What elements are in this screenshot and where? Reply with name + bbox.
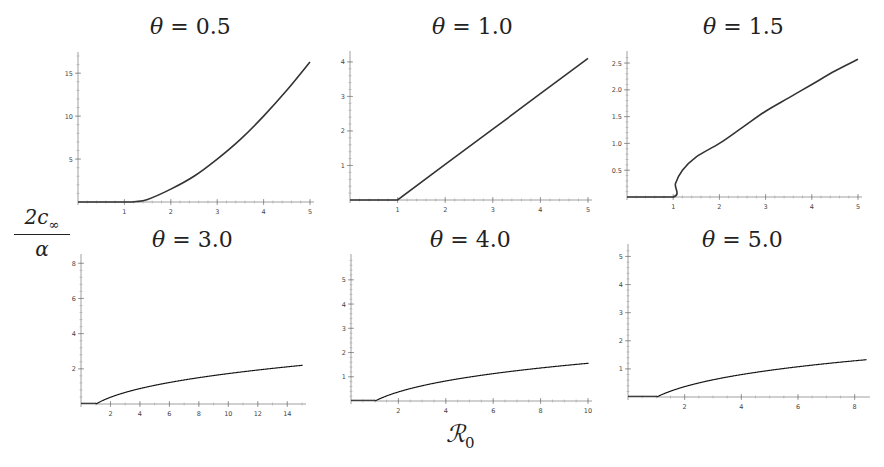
panel-5: 24681012345 <box>342 254 592 415</box>
x-tick-label: 3 <box>215 208 219 216</box>
x-tick-label: 3 <box>764 203 768 211</box>
y-tick-label: 1.0 <box>612 140 622 148</box>
panel-title-theta-1-5: θ = 1.5 <box>703 14 784 39</box>
panel-title-theta-4-0: θ = 4.0 <box>430 227 511 252</box>
y-tick-label: 10 <box>65 113 73 121</box>
x-tick-label: 4 <box>538 206 542 214</box>
panel-3: 123450.51.01.52.02.5 <box>612 51 862 211</box>
bifurcation-points <box>628 360 867 397</box>
y-tick-label: 3 <box>619 309 623 317</box>
y-tick-label: 8 <box>72 260 76 268</box>
x-tick-label: 1 <box>396 206 400 214</box>
x-tick-label: 10 <box>224 410 232 418</box>
x-tick-label: 5 <box>856 203 860 211</box>
x-tick-label: 2 <box>108 410 112 418</box>
y-axis-label-numerator: 2c∞ <box>14 205 70 235</box>
x-tick-label: 2 <box>683 403 687 411</box>
y-tick-label: 2.5 <box>612 60 622 68</box>
data-curve <box>350 58 588 200</box>
panel-6: 246812345 <box>619 244 870 411</box>
y-tick-label: 0.5 <box>612 167 622 175</box>
y-tick-label: 4 <box>619 281 623 289</box>
x-tick-label: 1 <box>122 208 126 216</box>
x-tick-label: 4 <box>138 410 142 418</box>
y-tick-label: 3 <box>342 325 346 333</box>
x-tick-label: 4 <box>810 203 814 211</box>
panel-title-theta-0-5: θ = 0.5 <box>150 14 231 39</box>
y-tick-label: 2 <box>619 337 623 345</box>
y-tick-label: 15 <box>65 70 73 78</box>
panel-title-theta-1-0: θ = 1.0 <box>432 14 513 39</box>
x-tick-label: 2 <box>717 203 721 211</box>
y-tick-label: 1 <box>342 373 346 381</box>
x-tick-label: 10 <box>584 407 592 415</box>
panel-title-theta-3-0: θ = 3.0 <box>152 227 233 252</box>
y-tick-label: 1 <box>341 162 345 170</box>
x-tick-label: 8 <box>539 407 543 415</box>
y-axis-label-denominator: α <box>14 235 70 261</box>
y-tick-label: 6 <box>72 295 76 303</box>
y-axis-label: 2c∞ α <box>14 205 70 261</box>
panel-title-theta-5-0: θ = 5.0 <box>702 227 783 252</box>
x-tick-label: 8 <box>197 410 201 418</box>
x-tick-label: 12 <box>254 410 262 418</box>
x-tick-label: 2 <box>169 208 173 216</box>
y-tick-label: 3 <box>341 93 345 101</box>
y-tick-label: 5 <box>342 276 346 284</box>
x-tick-label: 6 <box>491 407 495 415</box>
data-curve <box>627 59 858 197</box>
y-tick-label: 2 <box>342 349 346 357</box>
y-tick-label: 4 <box>342 301 346 309</box>
bifurcation-points <box>351 363 589 401</box>
y-tick-label: 4 <box>341 58 345 66</box>
panel-4: 24681012142468 <box>72 254 306 418</box>
y-tick-label: 1.5 <box>612 113 622 121</box>
x-tick-label: 4 <box>739 403 743 411</box>
y-tick-label: 5 <box>69 156 73 164</box>
y-tick-label: 2 <box>72 365 76 373</box>
x-tick-label: 14 <box>283 410 291 418</box>
x-tick-label: 8 <box>853 403 857 411</box>
x-tick-label: 2 <box>443 206 447 214</box>
x-tick-label: 5 <box>308 208 312 216</box>
data-curve <box>78 62 310 202</box>
x-tick-label: 6 <box>796 403 800 411</box>
x-tick-label: 4 <box>444 407 448 415</box>
panel-2: 123451234 <box>341 51 592 214</box>
x-tick-label: 1 <box>671 203 675 211</box>
y-tick-label: 2.0 <box>612 86 622 94</box>
y-tick-label: 5 <box>619 253 623 261</box>
y-tick-label: 4 <box>72 330 76 338</box>
x-axis-label: ℛ0 <box>446 420 475 452</box>
y-tick-label: 1 <box>619 365 623 373</box>
x-tick-label: 4 <box>262 208 266 216</box>
x-tick-label: 3 <box>491 206 495 214</box>
y-tick-label: 2 <box>341 127 345 135</box>
bifurcation-points <box>81 365 303 404</box>
x-tick-label: 5 <box>586 206 590 214</box>
x-tick-label: 2 <box>396 407 400 415</box>
x-tick-label: 6 <box>167 410 171 418</box>
panel-1: 1234551015 <box>65 52 314 216</box>
